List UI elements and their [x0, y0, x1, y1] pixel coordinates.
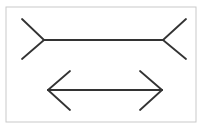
border-frame — [6, 7, 196, 122]
figure-canvas — [0, 0, 211, 134]
muller-lyer-figure — [0, 0, 211, 134]
